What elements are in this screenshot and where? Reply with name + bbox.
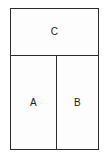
region-c-label: C [51, 27, 58, 37]
region-a-label: A [30, 98, 37, 108]
diagram-canvas: C A B [0, 0, 110, 158]
region-b[interactable]: B [57, 56, 98, 149]
horizontal-divider [10, 55, 99, 56]
region-b-label: B [74, 98, 81, 108]
region-c[interactable]: C [11, 9, 98, 55]
vertical-divider [56, 55, 57, 150]
region-a[interactable]: A [11, 56, 56, 149]
